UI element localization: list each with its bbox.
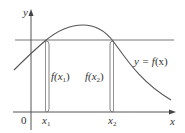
segment-f-x2 bbox=[110, 41, 113, 112]
curve-label-prefix: y = bbox=[134, 55, 152, 67]
tick-label-x1-sub: 1 bbox=[47, 120, 51, 128]
value-label-f-x2: f(x2) bbox=[85, 71, 104, 84]
tick-label-x2: x2 bbox=[108, 115, 116, 128]
origin-label: 0 bbox=[21, 115, 27, 126]
x-axis-arrow-icon bbox=[169, 110, 176, 115]
y-axis-arrow-icon bbox=[29, 9, 34, 16]
x-axis-label: x bbox=[170, 116, 175, 127]
value-label-f-x1-suffix: ) bbox=[66, 70, 70, 82]
value-label-f-x2-prefix: f(x bbox=[85, 70, 97, 82]
y-axis-label: y bbox=[23, 7, 28, 18]
tick-label-x1: x1 bbox=[42, 115, 50, 128]
segment-f-x1 bbox=[46, 41, 49, 112]
tick-label-x2-sub: 2 bbox=[113, 120, 117, 128]
value-label-f-x2-suffix: ) bbox=[100, 70, 104, 82]
value-label-f-x1: f(x1) bbox=[51, 71, 70, 84]
curve-label: y = f(x) bbox=[134, 56, 168, 67]
value-label-f-x1-prefix: f(x bbox=[51, 70, 63, 82]
curve-label-arg: (x) bbox=[155, 55, 168, 67]
